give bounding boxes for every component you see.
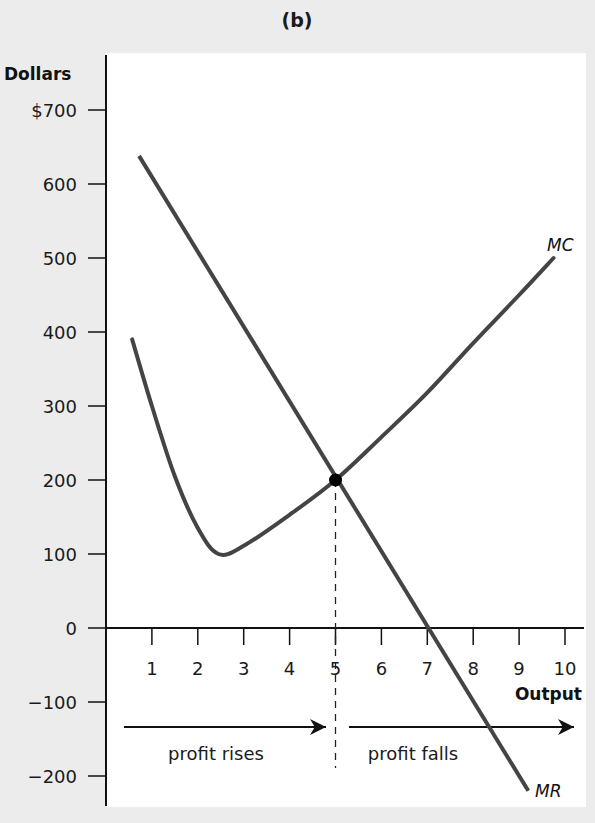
y-tick-label: 300 [43, 396, 77, 417]
x-tick-label: 1 [146, 658, 157, 679]
y-axis-title: Dollars [4, 64, 71, 84]
y-tick-label: 600 [43, 174, 77, 195]
x-tick-label: 3 [238, 658, 249, 679]
intersection-point [329, 474, 342, 487]
y-tick-label: −100 [28, 692, 77, 713]
profit-falls-label: profit falls [368, 743, 458, 764]
x-tick-label: 2 [192, 658, 203, 679]
y-tick-label: 400 [43, 322, 77, 343]
y-tick-label: 200 [43, 470, 77, 491]
x-tick-label: 8 [467, 658, 478, 679]
y-tick-label: −200 [28, 766, 77, 787]
y-tick-label: 100 [43, 544, 77, 565]
chart-title: (b) [282, 9, 313, 31]
x-tick-label: 7 [422, 658, 433, 679]
x-tick-label: 10 [554, 658, 577, 679]
x-axis-title: Output [515, 684, 582, 704]
y-tick-label: $700 [31, 100, 77, 121]
x-tick-label: 9 [513, 658, 524, 679]
mr-curve-label: MR [535, 781, 561, 801]
x-tick-label: 6 [376, 658, 387, 679]
y-axis: $7006005004003002001000−100−200 [28, 55, 106, 806]
y-tick-label: 0 [66, 618, 77, 639]
x-tick-label: 4 [284, 658, 295, 679]
profit-rises-label: profit rises [168, 743, 264, 764]
y-tick-label: 500 [43, 248, 77, 269]
mc-curve-label: MC [547, 235, 574, 255]
chart: (b) Dollars Output $70060050040030020010… [0, 0, 595, 823]
